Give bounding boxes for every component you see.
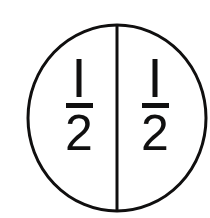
fraction-denominator-right: 2 (133, 110, 177, 156)
digit-one-stroke-left (77, 59, 82, 97)
fraction-label-left-half: 2 (57, 57, 101, 156)
fraction-circle-figure: 2 2 (0, 0, 210, 218)
fraction-numerator-left (57, 57, 101, 99)
digit-one-stroke-right (153, 59, 158, 97)
fraction-numerator-right (133, 57, 177, 99)
fraction-denominator-left: 2 (57, 110, 101, 156)
circle-diagram-svg (0, 0, 210, 218)
fraction-label-right-half: 2 (133, 57, 177, 156)
